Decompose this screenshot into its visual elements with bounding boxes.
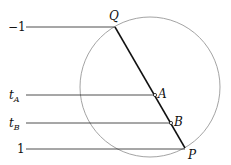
point-B-marker xyxy=(169,121,172,124)
point-A-marker xyxy=(153,93,156,96)
diagram: −1 tA tB 1 Q A B P xyxy=(0,0,231,165)
label-tB: tB xyxy=(9,117,20,132)
label-1: 1 xyxy=(17,143,25,155)
point-label-B: B xyxy=(174,116,183,128)
point-label-A: A xyxy=(158,88,167,100)
label-tA-sub: A xyxy=(14,95,20,104)
label-tB-sub: B xyxy=(14,123,20,132)
label-minus-1: −1 xyxy=(8,21,26,33)
point-label-Q: Q xyxy=(109,10,119,22)
label-tA: tA xyxy=(9,89,20,104)
chord-QP xyxy=(115,27,185,148)
diagram-canvas xyxy=(0,0,231,165)
point-label-P: P xyxy=(188,149,196,161)
